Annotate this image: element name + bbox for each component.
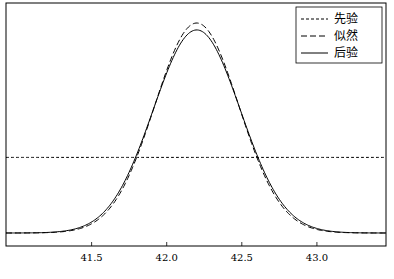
- x-tick-label: 43.0: [306, 252, 328, 263]
- chart: 41.542.042.543.0 先验 似然 后验: [0, 0, 394, 279]
- legend-posterior-label: 后验: [334, 45, 358, 60]
- x-tick-label: 42.0: [156, 252, 178, 263]
- legend: 先验 似然 后验: [296, 7, 382, 63]
- legend-prior-label: 先验: [334, 11, 358, 26]
- x-axis-ticks: 41.542.042.543.0: [80, 242, 328, 263]
- x-tick-label: 42.5: [231, 252, 253, 263]
- x-tick-label: 41.5: [80, 252, 102, 263]
- legend-likelihood-label: 似然: [334, 28, 358, 43]
